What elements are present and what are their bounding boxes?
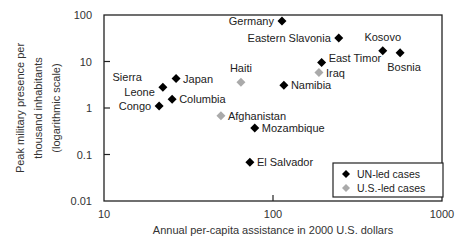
data-point: Congo — [119, 100, 164, 112]
point-label: Namibia — [291, 79, 332, 91]
point-label: Eastern Slavonia — [248, 32, 332, 44]
data-point: Haiti — [230, 62, 252, 87]
point-label: Sierra — [113, 71, 143, 83]
x-tick-label: 1000 — [430, 208, 454, 220]
x-tick-label: 10 — [98, 208, 110, 220]
diamond-marker-icon — [155, 102, 164, 111]
legend-us-label: U.S.-led cases — [357, 182, 425, 194]
diamond-marker-icon — [172, 74, 181, 83]
diamond-marker-icon — [236, 78, 245, 87]
legend-un-label: UN-led cases — [357, 168, 420, 180]
y-tick-label: 1 — [86, 102, 92, 114]
y-tick-label: 10 — [80, 56, 92, 68]
point-label: Japan — [183, 73, 213, 85]
x-axis: 101001000 — [98, 195, 454, 220]
data-point: Iraq — [314, 67, 344, 79]
point-label: Haiti — [230, 62, 252, 74]
point-label: Leone — [124, 86, 155, 98]
point-label: Bosnia — [387, 61, 422, 73]
data-point: Japan — [172, 73, 213, 85]
x-tick-label: 100 — [264, 208, 282, 220]
y-tick-label: 0.01 — [71, 195, 92, 207]
y-axis-title-line: thousand inhabitants — [32, 57, 44, 159]
x-axis-title: Annual per-capita assistance in 2000 U.S… — [153, 224, 394, 236]
y-tick-label: 0.1 — [77, 149, 92, 161]
data-point: East Timor — [317, 52, 381, 68]
point-label: Kosovo — [364, 31, 401, 43]
data-point: Columbia — [168, 93, 227, 105]
point-label: El Salvador — [257, 156, 314, 168]
diamond-marker-icon — [277, 17, 286, 26]
diamond-marker-icon — [317, 58, 326, 67]
point-label: East Timor — [329, 52, 382, 64]
y-axis-title-line: (logarithmic scale) — [50, 63, 62, 152]
y-axis-title-line: Peak military presence per — [14, 43, 26, 174]
diamond-marker-icon — [158, 83, 167, 92]
diamond-marker-icon — [279, 81, 288, 90]
diamond-marker-icon — [334, 34, 343, 43]
point-label: Afghanistan — [228, 110, 286, 122]
data-point: Germany — [229, 15, 287, 27]
legend: UN-led cases U.S.-led cases — [333, 163, 443, 197]
scatter-chart: Peak military presence perthousand inhab… — [0, 0, 472, 245]
y-tick-label: 100 — [74, 9, 92, 21]
diamond-marker-icon — [250, 124, 259, 133]
data-point: Mozambique — [250, 122, 324, 134]
diamond-marker-icon — [396, 48, 405, 57]
data-point: Namibia — [279, 79, 332, 91]
point-label: Mozambique — [262, 122, 325, 134]
y-axis-title: Peak military presence perthousand inhab… — [14, 43, 62, 174]
data-point: Bosnia — [387, 48, 422, 73]
point-label: Columbia — [179, 93, 226, 105]
point-label: Congo — [119, 100, 151, 112]
diamond-marker-icon — [245, 158, 254, 167]
data-point: Eastern Slavonia — [248, 32, 344, 44]
point-label: Germany — [229, 15, 275, 27]
diamond-marker-icon — [314, 68, 323, 77]
point-label: Iraq — [326, 67, 345, 79]
diamond-marker-icon — [168, 95, 177, 104]
data-points: GermanyEastern SlavoniaKosovoBosniaEast … — [113, 15, 422, 168]
data-point: Afghanistan — [216, 110, 286, 122]
diamond-marker-icon — [216, 111, 225, 120]
data-point: El Salvador — [245, 156, 313, 168]
data-point: SierraLeone — [113, 71, 168, 98]
